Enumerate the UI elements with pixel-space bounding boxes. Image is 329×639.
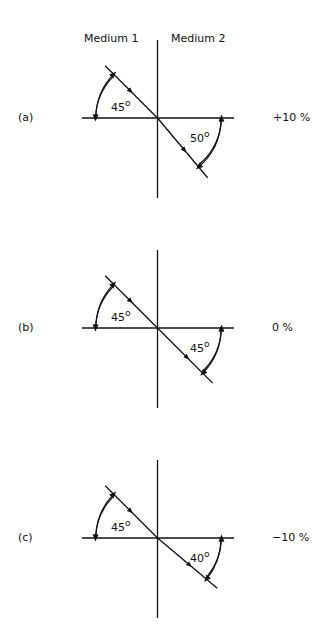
refracted-angle-arc [208, 538, 222, 576]
refracted-angle-arc-return [199, 121, 221, 167]
incident-angle-arc-return [96, 497, 113, 538]
incident-ray [105, 66, 157, 118]
incident-arrow-icon [129, 510, 130, 511]
refracted-ray [158, 328, 213, 383]
incident-angle-arc [96, 284, 114, 325]
refracted-angle-arc-return [207, 541, 221, 579]
refracted-angle-arc [204, 328, 222, 370]
incident-angle-arc-return [96, 77, 113, 118]
refraction-diagram [0, 0, 329, 639]
refracted-angle-arc-return [203, 331, 221, 373]
refracted-arrow-icon [188, 564, 190, 565]
incident-ray [105, 276, 157, 328]
incident-arrow-icon [129, 300, 130, 301]
refracted-angle-arc [200, 118, 222, 164]
refracted-ray [158, 538, 218, 588]
incident-angle-arc [96, 74, 114, 115]
refracted-arrow-icon [183, 149, 184, 151]
refracted-ray [158, 118, 208, 178]
incident-angle-arc [96, 494, 114, 535]
incident-ray [105, 486, 157, 538]
incident-arrow-icon [129, 90, 130, 91]
refracted-arrow-icon [186, 356, 187, 357]
incident-angle-arc-return [96, 287, 113, 328]
